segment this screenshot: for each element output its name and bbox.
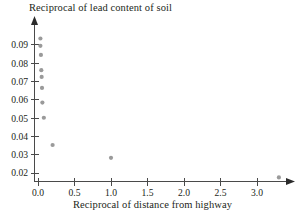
x-tick-label: 2.5 — [215, 187, 227, 198]
x-tick-label: 2.0 — [178, 187, 190, 198]
y-tick-label: 0.08 — [11, 58, 28, 69]
scatter-plot-figure: Reciprocal of lead content of soil 0.020… — [0, 0, 305, 219]
data-point — [39, 68, 43, 72]
x-tick-label: 0.5 — [69, 187, 81, 198]
y-tick-label: 0.09 — [11, 39, 28, 50]
y-tick-label: 0.06 — [11, 94, 28, 105]
data-point — [40, 86, 44, 90]
data-point — [42, 116, 46, 120]
data-point — [277, 175, 281, 179]
x-axis-label: Reciprocal of distance from highway — [0, 199, 305, 211]
data-point — [40, 100, 44, 104]
x-tick-label: 1.5 — [142, 187, 154, 198]
data-point — [51, 143, 55, 147]
data-point — [40, 75, 44, 79]
data-point — [38, 44, 42, 48]
y-tick-label: 0.05 — [11, 113, 28, 124]
data-point — [39, 53, 43, 57]
y-tick-label: 0.03 — [11, 149, 28, 160]
y-tick-label: 0.02 — [11, 167, 28, 178]
data-point — [38, 36, 42, 40]
x-tick-label: 0.0 — [32, 187, 44, 198]
x-tick-label: 3.0 — [251, 187, 263, 198]
x-axis-arrow-icon — [286, 178, 295, 185]
y-tick-label: 0.07 — [11, 76, 28, 87]
y-tick-label: 0.04 — [11, 131, 28, 142]
x-tick-label: 1.0 — [105, 187, 117, 198]
axes — [31, 16, 295, 185]
plot-area: 0.020.030.040.050.060.070.080.09 0.00.51… — [0, 0, 305, 219]
data-point-series — [38, 36, 281, 179]
y-axis-arrow-icon — [31, 16, 38, 25]
data-point — [109, 156, 113, 160]
x-axis-ticks: 0.00.51.01.52.02.53.0 — [32, 178, 263, 199]
